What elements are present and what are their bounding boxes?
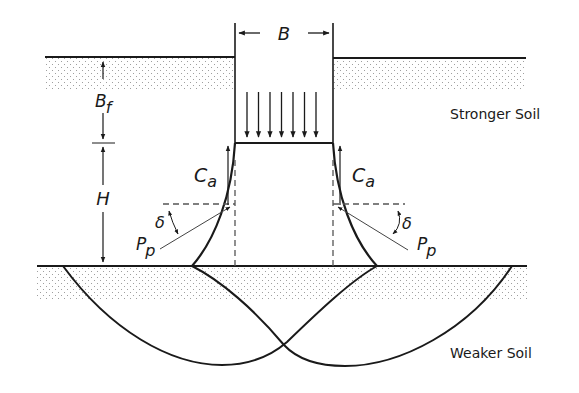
lower-stipple — [37, 267, 527, 300]
label-B: B — [278, 23, 290, 44]
load-arrows — [247, 92, 316, 137]
label-delta-left: δ — [155, 213, 165, 232]
upper-stipple-left — [45, 58, 235, 90]
upper-stipple-right — [334, 58, 526, 90]
label-delta-right: δ — [402, 214, 412, 233]
angle-arc-right — [393, 211, 400, 234]
label-Pp-left: Pp — [136, 234, 155, 260]
label-stronger-soil: Stronger Soil — [450, 106, 540, 122]
width-dimension: B — [239, 23, 329, 44]
label-Ca-right: Ca — [352, 164, 375, 191]
angle-arc-left — [169, 211, 178, 234]
label-weaker-soil: Weaker Soil — [450, 345, 532, 361]
punching-shear-diagram: B Bf H Ca Ca Pp Pp δ δ — [0, 0, 579, 393]
label-Bf: Bf — [95, 91, 114, 117]
passive-force-left — [160, 207, 230, 249]
label-H: H — [96, 188, 110, 209]
label-Pp-right: Pp — [417, 234, 436, 260]
label-Ca-left: Ca — [194, 164, 217, 191]
depth-dimensions: Bf H — [92, 62, 115, 262]
